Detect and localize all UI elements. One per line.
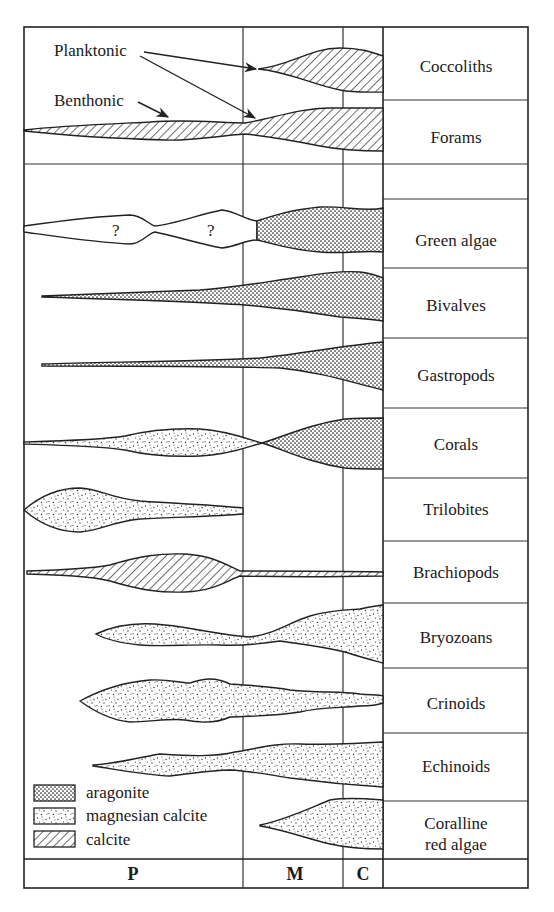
label-corals: Corals bbox=[434, 435, 478, 454]
label-crinoids: Crinoids bbox=[427, 694, 486, 713]
arrow-benthonic-forams bbox=[138, 102, 168, 117]
spindle-trilobites bbox=[24, 488, 243, 532]
spindle-bryozoans bbox=[96, 605, 383, 663]
label-coccoliths: Coccoliths bbox=[420, 57, 493, 76]
spindle-corals-mgcalcite bbox=[24, 429, 262, 457]
label-green-algae: Green algae bbox=[415, 231, 497, 250]
label-coralline-line2: red algae bbox=[425, 835, 487, 854]
legend-swatch-calcite bbox=[34, 831, 75, 847]
label-forams: Forams bbox=[431, 128, 482, 147]
legend-swatch-mgcalcite bbox=[34, 808, 75, 824]
spindle-corals-aragonite bbox=[262, 418, 383, 469]
spindle-coccoliths bbox=[258, 48, 383, 92]
row-labels: Coccoliths Forams Green algae Bivalves G… bbox=[413, 57, 499, 854]
era-label-cenozoic: C bbox=[357, 864, 370, 884]
spindle-gastropods bbox=[42, 342, 383, 390]
legend-label-calcite: calcite bbox=[86, 830, 130, 849]
question-mark-2: ? bbox=[207, 221, 215, 240]
label-bivalves: Bivalves bbox=[426, 296, 486, 315]
spindle-crinoids bbox=[80, 679, 383, 722]
spindle-brachiopods bbox=[27, 554, 383, 592]
legend: aragonite magnesian calcite calcite bbox=[34, 783, 207, 849]
spindle-echinoids bbox=[93, 742, 383, 787]
legend-label-aragonite: aragonite bbox=[86, 783, 149, 802]
planktonic-label: Planktonic bbox=[54, 41, 127, 60]
spindle-forams bbox=[24, 108, 383, 151]
benthonic-label: Benthonic bbox=[54, 91, 124, 110]
spindle-green-algae-aragonite bbox=[257, 207, 383, 253]
label-brachiopods: Brachiopods bbox=[413, 563, 499, 582]
arrow-planktonic-forams bbox=[140, 56, 255, 118]
question-mark-1: ? bbox=[112, 221, 120, 240]
legend-swatch-aragonite bbox=[34, 785, 75, 801]
spindle-coralline-red-algae bbox=[260, 798, 383, 849]
spindle-bivalves bbox=[42, 272, 383, 321]
legend-label-mgcalcite: magnesian calcite bbox=[86, 806, 207, 825]
label-trilobites: Trilobites bbox=[423, 500, 489, 519]
spindle-green-algae-uncertain bbox=[24, 210, 257, 248]
era-label-mesozoic: M bbox=[287, 864, 304, 884]
label-echinoids: Echinoids bbox=[422, 757, 490, 776]
mineralogy-range-diagram: Planktonic Benthonic ? ? Coccoliths Fora… bbox=[0, 0, 554, 912]
label-bryozoans: Bryozoans bbox=[420, 628, 493, 647]
era-labels: P M C bbox=[128, 864, 370, 884]
era-label-paleozoic: P bbox=[128, 864, 139, 884]
label-coralline-line1: Coralline bbox=[424, 814, 487, 833]
label-gastropods: Gastropods bbox=[417, 366, 494, 385]
